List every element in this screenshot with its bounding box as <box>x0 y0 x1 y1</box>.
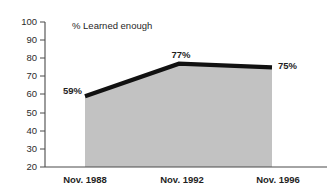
y-tick-label-70: 70 <box>26 70 37 81</box>
data-label-1992: 77% <box>171 49 191 60</box>
data-label-1988: 59% <box>63 85 83 96</box>
x-axis-label-1988: Nov. 1988 <box>63 174 107 185</box>
y-tick-label-20: 20 <box>26 161 37 172</box>
area-chart: 100 90 80 70 60 50 40 30 20 % Learned en… <box>0 0 334 191</box>
y-tick-label-30: 30 <box>26 143 37 154</box>
plot-title: % Learned enough <box>72 20 152 31</box>
chart-page: 100 90 80 70 60 50 40 30 20 % Learned en… <box>0 0 334 191</box>
y-tick-label-40: 40 <box>26 125 37 136</box>
y-tick-label-90: 90 <box>26 34 37 45</box>
x-axis-label-1996: Nov. 1996 <box>256 174 300 185</box>
x-axis-label-1992: Nov. 1992 <box>160 174 204 185</box>
y-tick-label-60: 60 <box>26 88 37 99</box>
y-tick-label-50: 50 <box>26 107 37 118</box>
y-tick-label-100: 100 <box>21 16 37 27</box>
data-label-1996: 75% <box>278 60 298 71</box>
y-tick-label-80: 80 <box>26 52 37 63</box>
